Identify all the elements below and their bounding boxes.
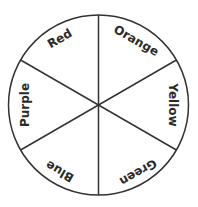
segment-label-yellow: Yellow	[166, 82, 180, 126]
segment-label-purple: Purple	[18, 83, 32, 127]
color-wheel: Red Orange Yellow Green Blue Purple	[0, 0, 198, 207]
